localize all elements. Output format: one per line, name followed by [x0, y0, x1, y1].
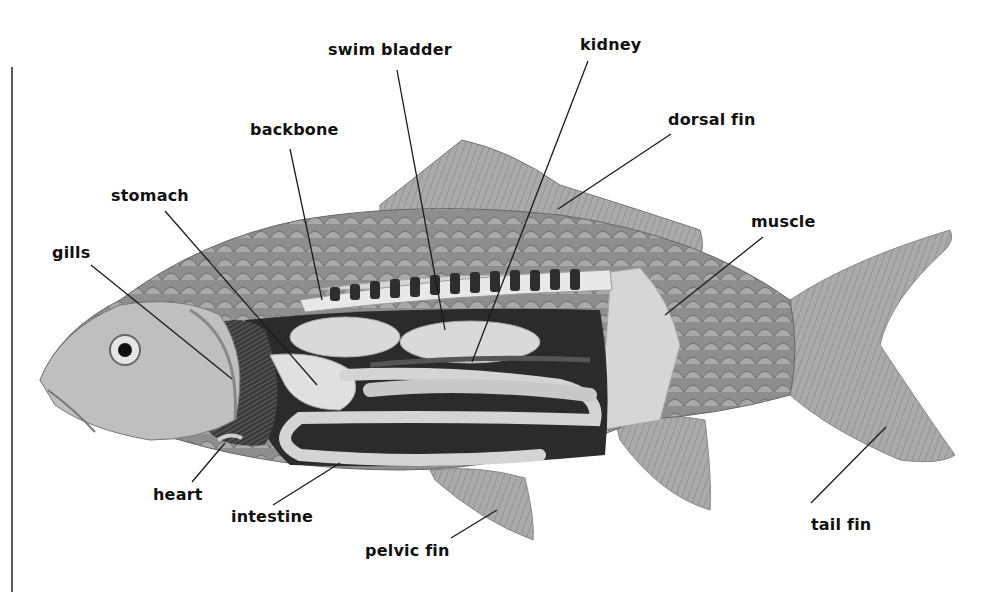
fish-illustration	[0, 0, 982, 592]
label-gills: gills	[52, 245, 90, 261]
label-swim-bladder: swim bladder	[328, 42, 452, 58]
pelvic-fin-shape	[430, 469, 533, 540]
anal-fin-shape	[615, 415, 710, 510]
leader-line-dorsal-fin	[558, 134, 671, 209]
label-intestine: intestine	[231, 509, 313, 525]
leader-line-pelvic-fin	[451, 510, 497, 538]
tail-fin-shape	[790, 230, 955, 462]
label-tail-fin: tail fin	[811, 517, 871, 533]
swim-bladder-front	[290, 317, 400, 357]
fish-anatomy-diagram: swim bladder kidney backbone dorsal fin …	[0, 0, 982, 592]
label-stomach: stomach	[111, 188, 189, 204]
label-kidney: kidney	[580, 37, 641, 53]
label-backbone: backbone	[250, 122, 339, 138]
head-shape	[40, 302, 240, 440]
label-muscle: muscle	[751, 214, 816, 230]
leader-line-heart	[192, 443, 225, 482]
pupil	[118, 343, 132, 357]
leader-line-intestine	[273, 463, 340, 505]
label-dorsal-fin: dorsal fin	[668, 112, 756, 128]
leader-line-tail-fin	[811, 427, 886, 503]
label-heart: heart	[153, 487, 203, 503]
label-pelvic-fin: pelvic fin	[365, 543, 450, 559]
